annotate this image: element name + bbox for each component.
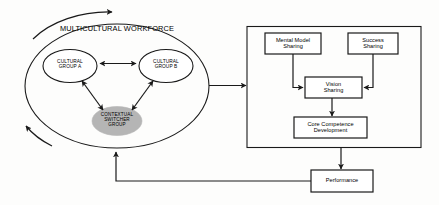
arrow-performance-feedback-to-workforce — [116, 152, 311, 181]
arrow-group-a-to-switcher — [82, 81, 103, 110]
core-competence-development-box[interactable] — [294, 117, 367, 138]
success-sharing-box[interactable] — [348, 33, 398, 54]
arrow-success-to-vision — [364, 54, 373, 88]
arrow-group-b-to-switcher — [132, 81, 153, 110]
performance-box[interactable] — [311, 170, 373, 192]
mental-model-sharing-box[interactable] — [265, 33, 321, 54]
contextual-switcher-group-node[interactable] — [92, 107, 142, 136]
cultural-group-a-node[interactable] — [43, 50, 97, 83]
vision-sharing-box[interactable] — [305, 77, 362, 98]
arrow-mental-model-to-vision — [293, 54, 303, 88]
diagram-canvas: MULTICULTURAL WORKFORCE CULTURAL GROUP A… — [0, 0, 439, 205]
cultural-group-b-node[interactable] — [139, 50, 193, 83]
workforce-flow-arc-bottom — [26, 126, 52, 146]
diagram-graphics — [0, 0, 439, 205]
